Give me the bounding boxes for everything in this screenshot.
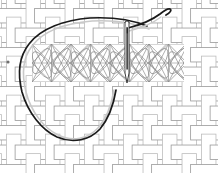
ink-speck — [6, 60, 9, 63]
fabric-weave — [0, 0, 218, 173]
sewing-needle — [125, 21, 129, 83]
embroidery-diagram: Embroidery stitch diagram basket-weave g… — [0, 0, 218, 173]
diagram-canvas — [0, 0, 218, 173]
